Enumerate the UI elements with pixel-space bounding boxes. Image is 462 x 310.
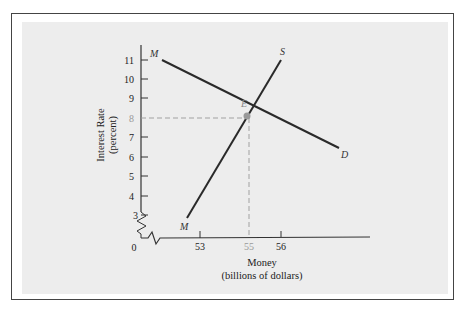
equilibrium-label: E: [240, 98, 247, 109]
svg-text:9: 9: [129, 93, 134, 104]
x-axis-title: Money (billions of dollars): [221, 257, 303, 282]
equilibrium-point: [244, 113, 251, 120]
supply-top-label: S: [280, 46, 285, 57]
supply-bottom-label: M: [179, 221, 189, 232]
svg-text:5: 5: [129, 171, 134, 182]
x-tick-labels: 53 55 56 0: [132, 241, 287, 253]
demand-top-label: M: [149, 48, 159, 59]
svg-text:(percent): (percent): [107, 116, 119, 154]
money-supply-curve: [187, 60, 281, 218]
svg-text:7: 7: [129, 132, 134, 143]
svg-text:Interest Rate: Interest Rate: [95, 108, 106, 162]
svg-text:56: 56: [276, 241, 286, 252]
svg-text:8: 8: [129, 113, 134, 124]
svg-text:6: 6: [129, 152, 134, 163]
svg-text:53: 53: [195, 241, 205, 252]
money-market-chart: 11 10 9 8 7 6 5 4 3 53 55 56 0 M D S M E…: [0, 0, 462, 310]
svg-text:(billions of dollars): (billions of dollars): [221, 270, 303, 282]
origin-label: 0: [132, 242, 137, 253]
svg-text:11: 11: [124, 55, 134, 66]
svg-text:3: 3: [133, 210, 138, 221]
svg-text:Money: Money: [247, 257, 277, 268]
y-ticks: [141, 60, 148, 215]
x-axis: [141, 232, 370, 244]
y-axis-break: [137, 212, 146, 238]
svg-text:4: 4: [129, 191, 134, 202]
demand-end-label: D: [340, 149, 349, 160]
svg-text:10: 10: [124, 74, 134, 85]
y-tick-labels: 11 10 9 8 7 6 5 4 3: [124, 55, 138, 221]
svg-text:55: 55: [244, 241, 254, 252]
money-demand-curve: [162, 60, 339, 148]
y-axis-title: Interest Rate (percent): [95, 108, 119, 162]
